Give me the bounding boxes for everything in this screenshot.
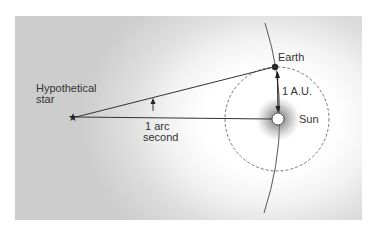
star-to-earth-line (76, 67, 274, 117)
sun-icon (272, 113, 284, 125)
earth-label: Earth (278, 51, 304, 63)
angle-arrow-head (151, 98, 156, 104)
star-icon: ★ (68, 111, 78, 124)
earth-icon (272, 64, 278, 70)
sun-label: Sun (299, 113, 319, 125)
au-arrow-head-top (275, 71, 280, 78)
au-label: 1 A.U. (282, 85, 312, 97)
angle-label-line2: second (143, 131, 178, 143)
star-to-sun-line (76, 117, 272, 119)
star-label-line2: star (36, 93, 54, 105)
au-arrow-shaft (278, 74, 279, 110)
